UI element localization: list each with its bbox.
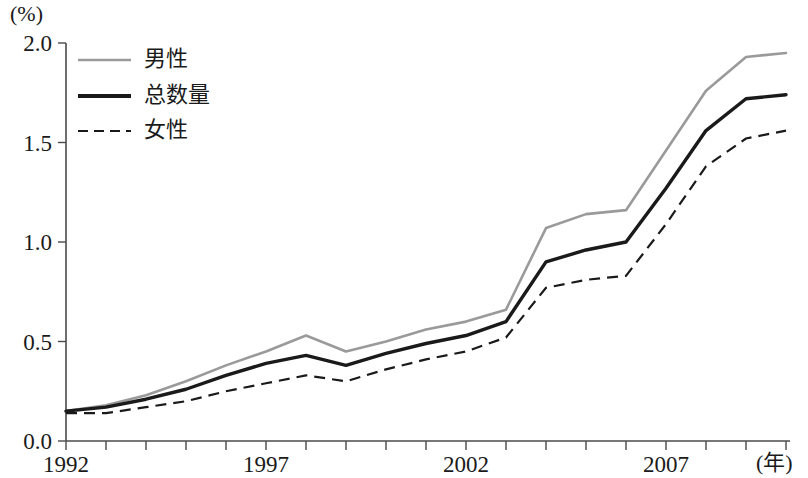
legend-label-female: 女性 (144, 117, 188, 142)
y-axis-unit-label: (%) (10, 1, 43, 26)
x-axis-ticks (66, 441, 786, 450)
x-axis-tick-label: 1992 (43, 452, 89, 477)
y-axis-tick-label: 1.0 (23, 230, 52, 255)
y-axis-ticks (58, 43, 66, 441)
x-axis-tick-label: 2002 (443, 452, 489, 477)
chart-legend: 男性 总数量 女性 (78, 46, 210, 142)
line-chart: (%) 0.00.51.01.52.0 1992199720022007 (年)… (0, 0, 808, 478)
x-axis-tick-label: 1997 (243, 452, 289, 477)
x-axis-tick-labels: 1992199720022007 (43, 452, 689, 477)
x-axis-tick-label: 2007 (643, 452, 689, 477)
y-axis-tick-label: 0.5 (23, 330, 52, 355)
legend-label-total: 总数量 (144, 82, 210, 107)
y-axis-tick-label: 1.5 (23, 131, 52, 156)
y-axis-tick-label: 2.0 (23, 31, 52, 56)
x-axis-unit-label: (年) (756, 450, 793, 475)
series-line-total (66, 95, 786, 411)
chart-svg: (%) 0.00.51.01.52.0 1992199720022007 (年)… (0, 0, 808, 478)
legend-label-male: 男性 (144, 46, 188, 71)
y-axis-tick-labels: 0.00.51.01.52.0 (23, 31, 52, 454)
y-axis-tick-label: 0.0 (23, 429, 52, 454)
